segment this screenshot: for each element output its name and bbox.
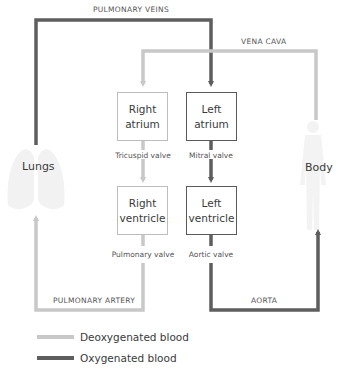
aortic-valve-label: Aortic valve xyxy=(181,250,241,259)
legend-label-oxygenated: Oxygenated blood xyxy=(80,352,177,364)
legend-swatch-oxygenated xyxy=(37,356,74,360)
left-atrium-line2: atrium xyxy=(194,117,229,132)
aorta-label: AORTA xyxy=(251,296,277,305)
legend-swatch-deoxygenated xyxy=(37,335,74,339)
right-atrium-box: Right atrium xyxy=(117,92,168,141)
blood-flow-lines xyxy=(0,0,338,377)
left-atrium-box: Left atrium xyxy=(186,92,237,141)
right-ventricle-line1: Right xyxy=(120,196,166,211)
pulmonary-veins-label: PULMONARY VEINS xyxy=(93,5,169,14)
pulmonary-valve-label: Pulmonary valve xyxy=(108,250,178,259)
vena-cava-label: VENA CAVA xyxy=(241,37,286,46)
body-silhouette xyxy=(300,121,326,230)
left-ventricle-line1: Left xyxy=(189,196,235,211)
right-ventricle-line2: ventricle xyxy=(120,211,166,226)
left-atrium-line1: Left xyxy=(194,102,229,117)
body-label: Body xyxy=(305,161,333,174)
lungs-silhouette xyxy=(8,149,65,209)
right-atrium-line1: Right xyxy=(125,102,160,117)
legend-item-oxygenated: Oxygenated blood xyxy=(37,352,177,364)
lungs-label: Lungs xyxy=(22,160,55,173)
tricuspid-valve-label: Tricuspid valve xyxy=(113,151,173,160)
legend-item-deoxygenated: Deoxygenated blood xyxy=(37,331,189,343)
pulmonary-artery-label: PULMONARY ARTERY xyxy=(53,296,135,305)
mitral-valve-label: Mitral valve xyxy=(181,151,241,160)
right-atrium-line2: atrium xyxy=(125,117,160,132)
right-ventricle-box: Right ventricle xyxy=(117,186,168,235)
left-ventricle-box: Left ventricle xyxy=(186,186,237,235)
legend-label-deoxygenated: Deoxygenated blood xyxy=(80,331,189,343)
left-ventricle-line2: ventricle xyxy=(189,211,235,226)
